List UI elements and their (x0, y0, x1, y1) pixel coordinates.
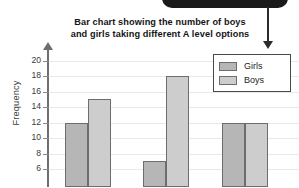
bar-girls-group-3 (222, 123, 245, 188)
y-axis-line (47, 49, 49, 187)
y-tick-mark (43, 169, 49, 170)
y-tick-label: 8 (1, 149, 41, 158)
y-tick-mark (43, 123, 49, 124)
plot-area: 20181614121086 Frequency (0, 0, 299, 187)
chart-screenshot: Bar chart showing the number of boys and… (0, 0, 299, 187)
legend-item-boys: Boys (219, 73, 285, 87)
legend-item-girls: Girls (219, 59, 285, 73)
y-tick-mark (43, 92, 49, 93)
y-tick-label: 10 (1, 133, 41, 142)
legend-swatch-boys-icon (219, 76, 237, 85)
legend-label-boys: Boys (244, 75, 264, 85)
y-tick-mark (43, 107, 49, 108)
y-tick-label: 18 (1, 71, 41, 80)
y-tick-mark (43, 61, 49, 62)
legend-swatch-girls-icon (219, 62, 237, 71)
chart-legend: Girls Boys (213, 54, 291, 92)
y-tick-mark (43, 154, 49, 155)
y-tick-mark (43, 76, 49, 77)
bar-girls-group-1 (65, 123, 88, 188)
y-axis-label: Frequency (11, 67, 21, 139)
y-tick-label: 20 (1, 56, 41, 65)
bar-boys-group-2 (166, 76, 189, 187)
y-tick-label: 12 (1, 118, 41, 127)
y-tick-mark (43, 138, 49, 139)
bar-boys-group-1 (88, 99, 111, 187)
bar-girls-group-2 (143, 161, 166, 187)
y-tick-label: 14 (1, 102, 41, 111)
bar-boys-group-3 (245, 123, 268, 188)
y-tick-label: 6 (1, 164, 41, 173)
y-tick-label: 16 (1, 87, 41, 96)
legend-label-girls: Girls (244, 61, 263, 71)
